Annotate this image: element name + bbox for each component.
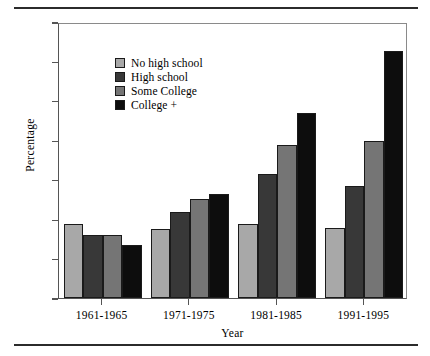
x-tick-label: 1981-1985 bbox=[226, 309, 326, 321]
bar bbox=[103, 235, 123, 298]
x-tick-label: 1961-1965 bbox=[52, 309, 152, 321]
bottom-horizontal-rule bbox=[14, 344, 418, 346]
legend-item: Some College bbox=[115, 84, 203, 98]
legend-swatch-icon bbox=[115, 72, 125, 82]
bar bbox=[345, 186, 365, 298]
bar bbox=[325, 228, 345, 298]
legend-item: No high school bbox=[115, 56, 203, 70]
bar bbox=[83, 235, 103, 298]
bar bbox=[209, 194, 229, 298]
legend-item: High school bbox=[115, 70, 203, 84]
plot-area: No high schoolHigh schoolSome CollegeCol… bbox=[58, 23, 407, 299]
legend-swatch-icon bbox=[115, 86, 125, 96]
chart-legend: No high schoolHigh schoolSome CollegeCol… bbox=[115, 56, 203, 112]
bar bbox=[238, 224, 258, 298]
x-tick-mark bbox=[188, 299, 189, 305]
legend-item: College + bbox=[115, 98, 203, 112]
bar bbox=[297, 113, 317, 298]
legend-swatch-icon bbox=[115, 58, 125, 68]
x-tick-mark bbox=[363, 299, 364, 305]
bar bbox=[384, 51, 404, 298]
top-horizontal-rule bbox=[14, 7, 418, 9]
legend-swatch-icon bbox=[115, 100, 125, 110]
legend-label: Some College bbox=[131, 85, 197, 97]
bar-chart-figure: Percentage 010203040506070 1961-19651971… bbox=[0, 0, 430, 356]
y-axis-label: Percentage bbox=[24, 90, 36, 200]
bar bbox=[64, 224, 84, 298]
bar bbox=[277, 145, 297, 298]
bar bbox=[170, 212, 190, 298]
legend-label: No high school bbox=[131, 57, 203, 69]
bar-group bbox=[238, 24, 316, 298]
bar bbox=[122, 245, 142, 298]
legend-label: High school bbox=[131, 71, 188, 83]
x-tick-mark bbox=[101, 299, 102, 305]
legend-label: College + bbox=[131, 99, 177, 111]
x-axis-label: Year bbox=[58, 327, 407, 339]
x-tick-mark bbox=[276, 299, 277, 305]
x-tick-label: 1971-1975 bbox=[139, 309, 239, 321]
bar bbox=[364, 141, 384, 298]
bar bbox=[151, 229, 171, 298]
bar bbox=[190, 199, 210, 298]
bar bbox=[258, 174, 278, 298]
bar-group bbox=[325, 24, 403, 298]
x-tick-label: 1991-1995 bbox=[313, 309, 413, 321]
